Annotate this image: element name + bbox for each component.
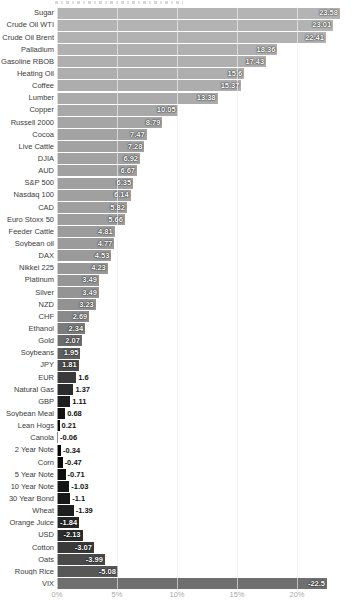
value-label: 15.6	[228, 70, 245, 78]
value-label: 7.28	[128, 143, 145, 151]
row-track: 6.92	[57, 153, 363, 164]
value-bar: 4.77	[57, 238, 114, 249]
value-label: -2.13	[63, 531, 82, 539]
value-label: 2.69	[73, 313, 90, 321]
value-bar: 7.28	[57, 141, 144, 152]
value-bar: -2.13	[57, 530, 83, 541]
value-label: 4.81	[98, 228, 115, 236]
value-bar: 2.07	[57, 335, 82, 346]
chart-row: Gasoline RBOB17.43	[0, 56, 363, 68]
row-label: Orange Juice	[0, 519, 57, 527]
row-track: 4.23	[57, 263, 363, 274]
row-track: 23.58	[57, 8, 363, 19]
value-label: 7.47	[130, 131, 147, 139]
row-label: Russell 2000	[0, 119, 57, 127]
row-label: EUR	[0, 374, 57, 382]
value-bar: 22.41	[57, 32, 326, 43]
row-track: -1.39	[57, 505, 363, 516]
row-track: 3.49	[57, 275, 363, 286]
row-label: Rough Rice	[0, 568, 57, 576]
row-track: -1.1	[57, 493, 363, 504]
value-bar	[57, 408, 65, 419]
value-label: 4.77	[98, 240, 115, 248]
row-label: Copper	[0, 106, 57, 114]
chart-row: GBP1.11	[0, 396, 363, 408]
chart-row: NZD3.23	[0, 298, 363, 310]
chart-row: Oats-3.99	[0, 553, 363, 565]
row-label: Lumber	[0, 94, 57, 102]
chart-row: EUR1.6	[0, 371, 363, 383]
value-label: -1.1	[70, 495, 85, 503]
value-label: 4.53	[95, 252, 112, 260]
row-track: 8.79	[57, 117, 363, 128]
value-label: 15.37	[221, 82, 242, 90]
value-label: 6.92	[123, 155, 140, 163]
value-label: 23.01	[312, 21, 333, 29]
value-bar: 2.34	[57, 323, 85, 334]
row-track: 23.01	[57, 20, 363, 31]
chart-row: Nikkei 2254.23	[0, 262, 363, 274]
row-label: Platinum	[0, 276, 57, 284]
value-label: 3.49	[82, 276, 99, 284]
row-label: USD	[0, 531, 57, 539]
row-track: 6.35	[57, 178, 363, 189]
value-label: 18.36	[257, 46, 278, 54]
chart-row: 30 Year Bond-1.1	[0, 493, 363, 505]
value-bar	[57, 481, 69, 492]
row-track: -2.13	[57, 530, 363, 541]
value-label: 8.79	[146, 119, 163, 127]
value-label: 2.34	[68, 325, 85, 333]
chart-row: Crude Oil Brent22.41	[0, 31, 363, 43]
row-track: -22.5	[57, 578, 363, 589]
row-track: -3.07	[57, 542, 363, 553]
chart-row: Platinum3.49	[0, 274, 363, 286]
value-label: 17.43	[245, 58, 266, 66]
value-label: 1.81	[62, 361, 79, 369]
chart-row: Silver3.49	[0, 286, 363, 298]
row-track: 7.28	[57, 141, 363, 152]
row-label: Soybeans	[0, 349, 57, 357]
row-label: Wheat	[0, 507, 57, 515]
value-bar	[57, 469, 66, 480]
value-bar: 1.81	[57, 360, 79, 371]
row-label: Oats	[0, 556, 57, 564]
chart-row: Cocoa7.47	[0, 128, 363, 140]
value-bar: 17.43	[57, 56, 266, 67]
chart-row: Gold2.07	[0, 335, 363, 347]
row-label: 5 Year Note	[0, 471, 57, 479]
chart-row: CHF2.69	[0, 311, 363, 323]
value-label: 0.21	[60, 422, 77, 430]
row-label: 30 Year Bond	[0, 495, 57, 503]
value-label: -3.99	[86, 556, 105, 564]
row-track: 5.82	[57, 202, 363, 213]
row-label: Coffee	[0, 82, 57, 90]
row-track: 6.67	[57, 165, 363, 176]
value-label: 22.41	[305, 34, 326, 42]
row-track: 3.49	[57, 287, 363, 298]
row-label: JPY	[0, 361, 57, 369]
value-label: -0.06	[58, 434, 77, 442]
row-track: 1.6	[57, 372, 363, 383]
row-label: GBP	[0, 398, 57, 406]
value-bar: 15.6	[57, 68, 244, 79]
row-label: Soybean oil	[0, 240, 57, 248]
row-label: VIX	[0, 580, 57, 588]
gridline-overlay	[297, 7, 298, 590]
value-bar: 6.35	[57, 178, 133, 189]
value-label: 6.35	[117, 179, 134, 187]
row-label: AUD	[0, 167, 57, 175]
clipped-title-remnant	[55, 1, 183, 4]
chart-row: Soybeans1.95	[0, 347, 363, 359]
chart-row: JPY1.81	[0, 359, 363, 371]
value-bar	[57, 396, 70, 407]
chart-row: Feeder Cattle4.81	[0, 226, 363, 238]
value-bar: -3.07	[57, 542, 94, 553]
chart-row: Canola-0.06	[0, 432, 363, 444]
value-label: 0.68	[65, 410, 82, 418]
chart-row: Sugar23.58	[0, 7, 363, 19]
chart-row: CAD5.82	[0, 201, 363, 213]
row-label: S&P 500	[0, 179, 57, 187]
row-track: -0.06	[57, 432, 363, 443]
x-axis-tick: 10%	[169, 591, 184, 599]
row-label: CHF	[0, 313, 57, 321]
